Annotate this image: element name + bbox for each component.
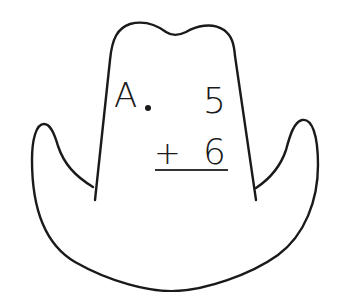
plus-operator: + xyxy=(154,137,181,169)
problem-label: A xyxy=(114,78,137,112)
answer-line xyxy=(155,169,228,171)
addend-top: 5 xyxy=(203,83,226,119)
problem-label-period xyxy=(145,105,151,111)
addend-bottom: 6 xyxy=(203,134,226,170)
